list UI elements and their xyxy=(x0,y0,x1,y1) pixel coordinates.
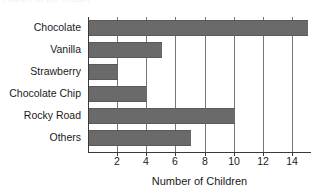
category-label-vanilla: Vanilla xyxy=(50,43,81,55)
gridline-10 xyxy=(234,17,235,152)
x-axis-title: Number of Children xyxy=(88,174,311,188)
x-tick-label-4: 4 xyxy=(134,155,158,168)
x-axis-tick-labels: 2 4 6 8 10 12 14 xyxy=(88,155,318,169)
x-axis-line xyxy=(88,152,311,153)
bar-others xyxy=(89,130,191,146)
x-tick-label-8: 8 xyxy=(193,155,217,168)
gridline-14 xyxy=(292,17,293,152)
gridline-8 xyxy=(205,17,206,152)
category-label-chocolate: Chocolate xyxy=(34,21,81,33)
plot-area xyxy=(88,17,311,152)
category-label-rocky-road: Rocky Road xyxy=(24,109,81,121)
bar-chocolate xyxy=(89,20,308,36)
bar-chocolate-chip xyxy=(89,86,147,102)
bar-strawberry xyxy=(89,64,118,80)
clipped-chart-title: Flavors of Ice Cream xyxy=(2,0,202,4)
x-tick-label-12: 12 xyxy=(251,155,275,168)
category-label-chocolate-chip: Chocolate Chip xyxy=(9,87,81,99)
bar-rocky-road xyxy=(89,108,235,124)
category-label-strawberry: Strawberry xyxy=(30,65,81,77)
category-axis-labels: Chocolate Vanilla Strawberry Chocolate C… xyxy=(0,17,85,152)
category-label-others: Others xyxy=(49,131,81,143)
x-tick-label-10: 10 xyxy=(222,155,246,168)
x-tick-label-6: 6 xyxy=(163,155,187,168)
x-tick-label-14: 14 xyxy=(280,155,304,168)
gridline-12 xyxy=(263,17,264,152)
x-tick-label-2: 2 xyxy=(105,155,129,168)
bar-vanilla xyxy=(89,42,162,58)
bar-chart: Flavors of Ice Cream Chocolate Vanilla S… xyxy=(0,0,325,194)
